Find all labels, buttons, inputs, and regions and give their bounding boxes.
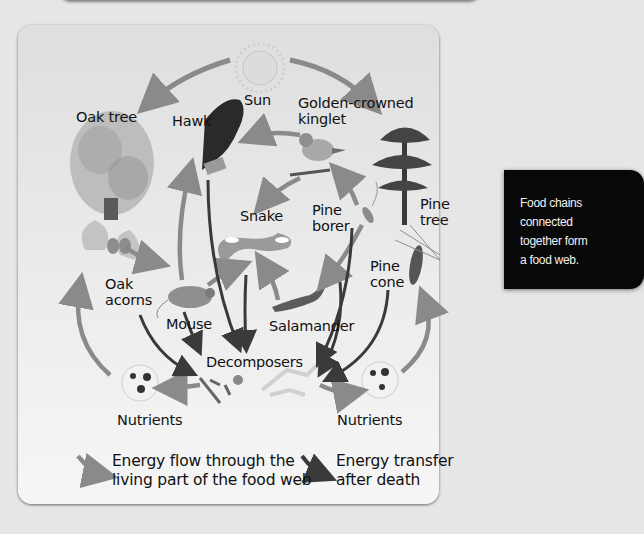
label-pine-borer: Pine borer	[312, 202, 350, 234]
oak-acorns-icon	[82, 220, 139, 260]
nutrients-left-icon	[122, 365, 158, 401]
label-nutrients-left: Nutrients	[117, 412, 182, 428]
label-pine-tree: Pine tree	[420, 196, 450, 228]
legend-after-death: Energy transfer after death	[336, 452, 453, 490]
label-golden-crowned-kinglet: Golden-crowned kinglet	[298, 95, 414, 127]
label-pine-cone: Pine cone	[370, 258, 404, 290]
hawk-icon	[202, 99, 244, 175]
label-hawk: Hawk	[172, 113, 211, 129]
label-nutrients-right: Nutrients	[337, 412, 402, 428]
label-decomposers: Decomposers	[206, 354, 303, 370]
oak-tree-icon	[70, 111, 154, 220]
label-mouse: Mouse	[166, 316, 212, 332]
arrow-sun-to-oak	[148, 60, 230, 104]
label-oak-tree: Oak tree	[76, 109, 137, 125]
nutrients-right-icon	[362, 362, 398, 398]
sun-icon	[236, 44, 284, 92]
pine-borer-icon	[360, 182, 377, 225]
label-oak-acorns: Oak acorns	[105, 276, 152, 308]
salamander-icon	[272, 275, 327, 312]
callout-text: Food chains connected together form a fo…	[520, 194, 640, 270]
label-snake: Snake	[240, 208, 283, 224]
legend-living-flow: Energy flow through the living part of t…	[112, 452, 311, 490]
label-salamander: Salamander	[269, 318, 354, 334]
label-sun: Sun	[244, 92, 271, 108]
kinglet-icon	[290, 133, 346, 175]
snake-icon	[218, 233, 291, 262]
legend-living-arrow-icon	[78, 456, 105, 475]
decomposers-icon	[200, 365, 317, 403]
